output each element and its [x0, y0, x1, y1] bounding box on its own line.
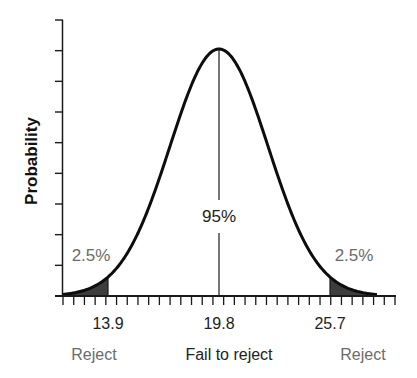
region-label-left: Reject [71, 346, 117, 363]
center-percentage: 95% [202, 207, 236, 226]
x-tick-label-right: 25.7 [314, 315, 345, 332]
right-tail-percentage: 2.5% [335, 246, 374, 265]
x-tick-label-left: 13.9 [92, 315, 123, 332]
x-tick-label-center: 19.8 [203, 315, 234, 332]
region-label-right: Reject [340, 346, 386, 363]
left-tail-percentage: 2.5% [72, 246, 111, 265]
y-axis-label: Probability [22, 117, 41, 205]
normal-distribution-chart: Probability 2.5% 95% 2.5% 13.9 19.8 25.7… [0, 0, 417, 378]
x-axis-ticks [63, 296, 395, 305]
region-label-center: Fail to reject [185, 346, 273, 363]
